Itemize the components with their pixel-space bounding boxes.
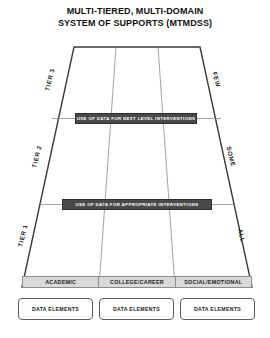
data-use-banner-next-level: USE OF DATA FOR NEXT LEVEL INTERVENTIONS (75, 113, 197, 124)
domain-header-social-emotional: SOCIAL/EMOTIONAL (175, 276, 252, 288)
data-elements-box-college-career[interactable]: DATA ELEMENTS (99, 298, 174, 320)
data-elements-box-academic[interactable]: DATA ELEMENTS (18, 298, 93, 320)
domain-header-college-career: COLLEGE/CAREER (98, 276, 175, 288)
domain-header-academic: ACADEMIC (22, 276, 99, 288)
data-use-banner-appropriate: USE OF DATA FOR APPROPRIATE INTERVENTION… (62, 199, 212, 210)
data-elements-box-social-emotional[interactable]: DATA ELEMENTS (180, 298, 255, 320)
data-elements-row: DATA ELEMENTS DATA ELEMENTS DATA ELEMENT… (18, 298, 255, 320)
domain-header-band: ACADEMIC COLLEGE/CAREER SOCIAL/EMOTIONAL (22, 276, 252, 288)
